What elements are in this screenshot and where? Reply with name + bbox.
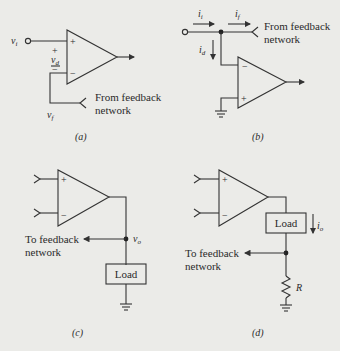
ground-icon-d xyxy=(280,305,292,311)
panel-b: ii if id From feedback network − + (b) xyxy=(182,8,330,143)
op-amp-a-minus: − xyxy=(70,68,76,79)
caption-a: (a) xyxy=(75,131,87,143)
to-feedback-d-line2: network xyxy=(185,260,222,272)
panel-c: + − vo To feedback network Load (c) xyxy=(25,170,146,339)
io-label: io xyxy=(317,220,324,233)
from-feedback-a-line2: network xyxy=(95,104,132,116)
load-label-d: Load xyxy=(275,217,298,229)
if-label: if xyxy=(235,8,241,21)
input-terminal-a xyxy=(25,38,30,43)
op-amp-d-plus: + xyxy=(222,174,228,185)
op-amp-d-minus: − xyxy=(222,210,228,221)
op-amp-c-minus: − xyxy=(61,210,67,221)
vo-label: vo xyxy=(133,233,141,246)
to-feedback-d-line1: To feedback xyxy=(185,247,239,259)
vi-label: vi xyxy=(11,35,17,48)
from-feedback-b-line2: network xyxy=(264,33,301,45)
op-amp-c-plus: + xyxy=(61,174,67,185)
from-feedback-a-line1: From feedback xyxy=(95,91,162,103)
caption-c: (c) xyxy=(72,327,84,339)
to-feedback-c-line2: network xyxy=(25,246,62,258)
panel-a: + − vi + vd − From feedback network vf (… xyxy=(11,30,162,143)
ground-icon-c xyxy=(120,304,132,310)
ground-icon-b xyxy=(215,111,227,117)
input-terminal-b xyxy=(182,29,187,34)
op-amp-a-plus: + xyxy=(70,36,76,47)
resistor-icon-d xyxy=(282,276,290,298)
load-label-c: Load xyxy=(115,268,138,280)
vf-label: vf xyxy=(47,109,54,122)
op-amp-b-minus: − xyxy=(242,61,248,72)
panel-d: + − Load io To feedback network R (d) xyxy=(185,170,324,339)
resistor-label-r: R xyxy=(295,282,302,293)
ii-label: ii xyxy=(198,8,203,21)
to-feedback-c-line1: To feedback xyxy=(25,233,79,245)
caption-b: (b) xyxy=(252,131,264,143)
id-label: id xyxy=(199,44,206,57)
feedback-topologies-diagram: + − vi + vd − From feedback network vf (… xyxy=(0,0,340,351)
op-amp-b-plus: + xyxy=(241,93,247,104)
caption-d: (d) xyxy=(252,327,264,339)
from-feedback-b-line1: From feedback xyxy=(264,20,331,32)
